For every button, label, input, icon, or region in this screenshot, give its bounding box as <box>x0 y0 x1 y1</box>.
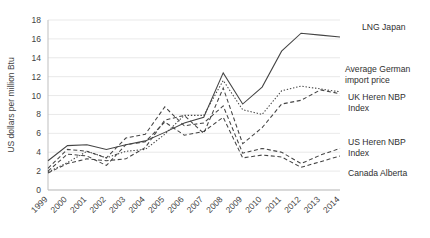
x-axis-tick-labels: 1999200020012002200320042005200620072008… <box>29 194 342 215</box>
series-label-line: Canada Alberta <box>348 168 407 178</box>
series-label-lng-japan: LNG Japan <box>362 22 406 32</box>
series-line-uk-heren-nbp-index <box>48 88 340 173</box>
series-line-average-german-import-price <box>48 80 340 172</box>
x-tick-2011: 2011 <box>263 194 283 214</box>
x-tick-2005: 2005 <box>146 194 167 215</box>
series-label-us-heren-nbp-index: US Heren NBPIndex <box>348 137 406 158</box>
series-inline-labels: LNG JapanAverage Germanimport priceUK He… <box>345 22 411 178</box>
chart-canvas: 024681012141618 199920002001200220032004… <box>0 0 430 238</box>
y-axis-tick-labels: 024681012141618 <box>32 15 42 195</box>
y-tick-16: 16 <box>32 34 42 44</box>
y-tick-2: 2 <box>36 166 41 176</box>
x-tick-2010: 2010 <box>243 194 264 215</box>
y-axis-title-text: US dollars per million Btu <box>6 57 16 153</box>
x-tick-2001: 2001 <box>68 194 89 215</box>
x-tick-2007: 2007 <box>185 194 206 215</box>
x-tick-2009: 2009 <box>224 194 245 215</box>
series-label-line: UK Heren NBP <box>348 92 406 102</box>
x-tick-2014: 2014 <box>321 194 342 215</box>
x-tick-2004: 2004 <box>126 194 147 215</box>
series-label-line: import price <box>345 75 390 85</box>
x-tick-2003: 2003 <box>107 194 128 215</box>
series-label-line: Index <box>348 148 370 158</box>
x-tick-2013: 2013 <box>301 194 322 215</box>
y-tick-12: 12 <box>32 72 42 82</box>
line-chart: 024681012141618 199920002001200220032004… <box>0 0 430 238</box>
series-label-line: Index <box>348 103 370 113</box>
x-tick-1999: 1999 <box>29 194 50 215</box>
y-tick-10: 10 <box>32 91 42 101</box>
series-line-canada-alberta <box>48 117 340 171</box>
x-tick-2006: 2006 <box>165 194 186 215</box>
y-tick-4: 4 <box>36 147 41 157</box>
x-tick-2012: 2012 <box>282 194 303 215</box>
series-label-average-german-import-price: Average Germanimport price <box>345 64 411 85</box>
series-label-canada-alberta: Canada Alberta <box>348 168 407 178</box>
y-axis-title: US dollars per million Btu <box>6 57 16 153</box>
y-tick-0: 0 <box>36 185 41 195</box>
y-tick-6: 6 <box>36 128 41 138</box>
series-label-uk-heren-nbp-index: UK Heren NBPIndex <box>348 92 406 113</box>
x-tick-2000: 2000 <box>48 194 69 215</box>
y-tick-14: 14 <box>32 53 42 63</box>
x-tick-2002: 2002 <box>87 194 108 215</box>
series-label-line: Average German <box>345 64 411 74</box>
series-label-line: US Heren NBP <box>348 137 406 147</box>
y-tick-18: 18 <box>32 15 42 25</box>
series-line-lng-japan <box>48 33 340 161</box>
x-tick-2008: 2008 <box>204 194 225 215</box>
series-label-line: LNG Japan <box>362 22 406 32</box>
y-tick-8: 8 <box>36 109 41 119</box>
